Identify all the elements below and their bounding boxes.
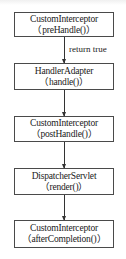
edge-label-return-true: return true — [69, 44, 107, 54]
node-title: CustomInterceptor — [30, 118, 98, 129]
node-method: （render()） — [40, 182, 89, 193]
node-method: （preHandle()） — [32, 25, 95, 36]
node-handler-adapter-handle: HandlerAdapter （handle()） — [14, 63, 114, 90]
arrow-prehandle-to-handleradapter — [64, 37, 65, 63]
cropped-caption-remnant — [0, 0, 126, 5]
arrow-posthandle-to-dispatcherservlet — [64, 142, 65, 168]
node-method: （handle()） — [39, 77, 89, 88]
node-dispatcher-servlet-render: DispatcherServlet （render()） — [14, 168, 114, 195]
node-title: HandlerAdapter — [35, 66, 93, 77]
node-title: CustomInterceptor — [30, 223, 98, 234]
arrow-handleradapter-to-posthandle — [64, 90, 65, 116]
node-custom-interceptor-aftercompletion: CustomInterceptor （afterCompletion()） — [14, 220, 114, 248]
node-method: （postHandle()） — [31, 129, 98, 140]
node-custom-interceptor-prehandle: CustomInterceptor （preHandle()） — [14, 12, 114, 37]
node-title: DispatcherServlet — [32, 171, 97, 182]
node-title: CustomInterceptor — [30, 14, 98, 25]
node-method: （afterCompletion()） — [22, 234, 107, 245]
node-custom-interceptor-posthandle: CustomInterceptor （postHandle()） — [14, 116, 114, 142]
arrow-dispatcherservlet-to-aftercompletion — [64, 195, 65, 220]
